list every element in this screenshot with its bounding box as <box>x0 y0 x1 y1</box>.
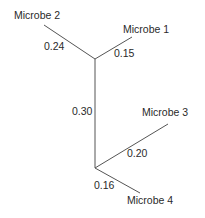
leaf-label-microbe-1: Microbe 1 <box>123 24 169 35</box>
leaf-label-microbe-2: Microbe 2 <box>14 10 60 21</box>
branch-length-microbe-2: 0.24 <box>44 41 64 52</box>
branch-microbe-3 <box>95 124 168 168</box>
branch-length-microbe-3: 0.20 <box>127 148 147 159</box>
leaf-label-microbe-3: Microbe 3 <box>142 107 188 118</box>
branch-length-microbe-1: 0.15 <box>114 48 134 59</box>
branch-length-microbe-4: 0.16 <box>94 180 114 191</box>
branch-length-internal: 0.30 <box>72 106 92 117</box>
leaf-label-microbe-4: Microbe 4 <box>127 195 173 206</box>
